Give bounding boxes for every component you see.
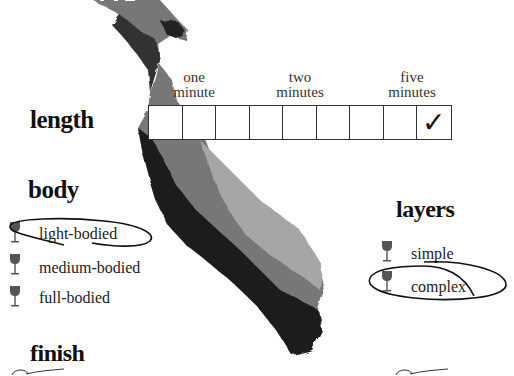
length-cell-7[interactable]: [350, 106, 384, 139]
tick-label-line2: minutes: [372, 85, 452, 100]
length-cell-4[interactable]: [250, 106, 284, 139]
length-heading: length: [30, 106, 94, 134]
wine-glass-icon: [381, 240, 393, 262]
wine-glass-icon: [9, 221, 21, 243]
length-cell-5[interactable]: [283, 106, 317, 139]
body-option-full-bodied[interactable]: full-bodied: [39, 289, 110, 307]
tick-label-line1: five: [372, 70, 452, 85]
layers-option-complex[interactable]: complex: [411, 278, 466, 296]
body-heading: body: [28, 176, 79, 204]
wine-glass-icon: [9, 253, 21, 275]
finish-heading: finish: [30, 340, 84, 367]
wine-glass-icon: [9, 285, 21, 307]
layers-option-simple[interactable]: simple: [411, 245, 454, 263]
tick-five-minutes: five minutes: [372, 70, 452, 100]
length-cell-9-checked[interactable]: ✓: [417, 106, 451, 139]
body-option-medium-bodied[interactable]: medium-bodied: [39, 259, 140, 277]
body-option-light-bodied[interactable]: light-bodied: [39, 225, 117, 243]
layers-heading: layers: [396, 196, 454, 223]
tick-one-minute: one minute: [154, 70, 234, 100]
length-cell-6[interactable]: [317, 106, 351, 139]
length-cell-8[interactable]: [384, 106, 418, 139]
tick-two-minutes: two minutes: [260, 70, 340, 100]
tick-label-line1: one: [154, 70, 234, 85]
length-scale: ✓: [148, 105, 452, 140]
tick-label-line1: two: [260, 70, 340, 85]
wine-glass-icon: [381, 270, 393, 292]
tick-label-line2: minutes: [260, 85, 340, 100]
length-cell-2[interactable]: [183, 106, 217, 139]
tick-label-line2: minute: [154, 85, 234, 100]
length-cell-3[interactable]: [216, 106, 250, 139]
length-cell-1[interactable]: [149, 106, 183, 139]
